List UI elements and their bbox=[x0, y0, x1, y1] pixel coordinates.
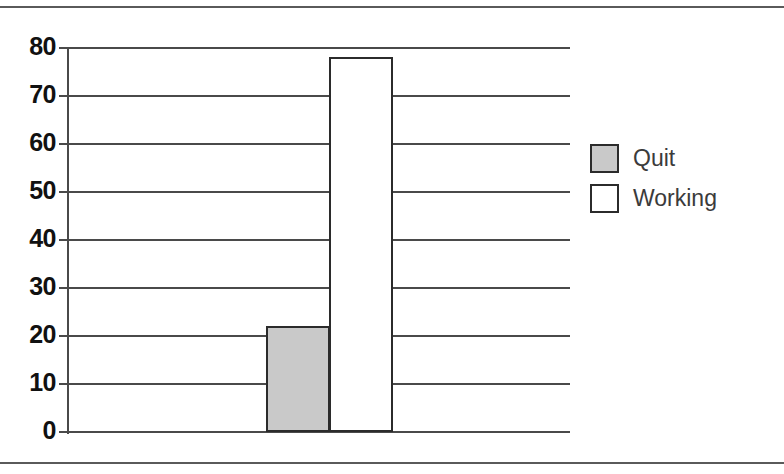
y-tick-label-40: 40 bbox=[6, 226, 56, 251]
gray-swatch-icon bbox=[590, 144, 619, 173]
gridline-50 bbox=[68, 191, 570, 193]
bar-chart: 80 70 60 50 40 30 20 10 0 bbox=[0, 0, 784, 474]
y-tick-label-80: 80 bbox=[6, 34, 56, 59]
y-tick-label-70: 70 bbox=[6, 82, 56, 107]
gridline-30 bbox=[68, 287, 570, 289]
y-tick-label-60: 60 bbox=[6, 130, 56, 155]
chart-legend: Quit Working bbox=[590, 138, 717, 218]
y-tick-label-0: 0 bbox=[6, 418, 56, 443]
y-tick-label-50: 50 bbox=[6, 178, 56, 203]
y-tick-label-30: 30 bbox=[6, 274, 56, 299]
legend-label-working: Working bbox=[633, 187, 717, 210]
legend-label-quit: Quit bbox=[633, 147, 675, 170]
white-swatch-icon bbox=[590, 184, 619, 213]
chart-page: 80 70 60 50 40 30 20 10 0 bbox=[0, 0, 784, 474]
gridline-80 bbox=[68, 47, 570, 49]
y-tick-label-10: 10 bbox=[6, 370, 56, 395]
gridline-60 bbox=[68, 143, 570, 145]
gridline-40 bbox=[68, 239, 570, 241]
y-axis-labels: 80 70 60 50 40 30 20 10 0 bbox=[0, 0, 56, 474]
y-tick-label-20: 20 bbox=[6, 322, 56, 347]
plot-area bbox=[68, 47, 570, 432]
gridline-70 bbox=[68, 95, 570, 97]
bar-quit[interactable] bbox=[266, 326, 330, 432]
bar-working[interactable] bbox=[329, 57, 393, 432]
legend-item-quit[interactable]: Quit bbox=[590, 138, 717, 178]
legend-item-working[interactable]: Working bbox=[590, 178, 717, 218]
